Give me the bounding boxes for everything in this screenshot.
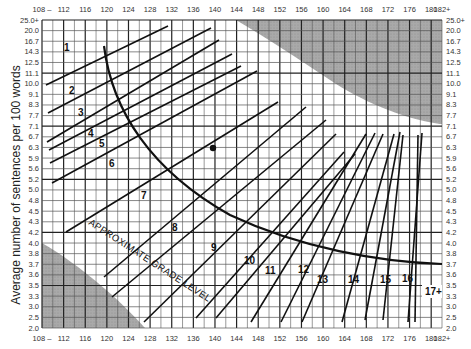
svg-text:12.5: 12.5 [446, 58, 461, 67]
grade-label-7: 7 [141, 190, 147, 201]
svg-text:152: 152 [274, 5, 287, 14]
svg-text:4.2: 4.2 [29, 228, 39, 237]
svg-text:2.5: 2.5 [29, 313, 39, 322]
grade-label-5: 5 [99, 138, 105, 149]
svg-text:148: 148 [252, 5, 265, 14]
svg-text:11.1: 11.1 [446, 69, 460, 78]
svg-text:182+: 182+ [434, 5, 452, 14]
svg-text:3.0: 3.0 [446, 302, 456, 311]
svg-text:124: 124 [122, 334, 135, 343]
grade-label-10: 10 [244, 255, 256, 266]
svg-text:144: 144 [230, 5, 243, 14]
grade-label-3: 3 [78, 107, 84, 118]
svg-text:108 –: 108 – [33, 5, 53, 14]
grade-label-9: 9 [211, 242, 217, 253]
svg-text:132: 132 [165, 334, 178, 343]
grade-label-15: 15 [380, 274, 392, 285]
svg-text:3.6: 3.6 [29, 270, 39, 279]
svg-text:164: 164 [338, 5, 351, 14]
svg-text:108 –: 108 – [33, 334, 53, 343]
svg-text:5.0: 5.0 [29, 185, 39, 194]
svg-text:2.5: 2.5 [446, 313, 456, 322]
svg-text:9.1: 9.1 [29, 90, 39, 99]
svg-text:6.3: 6.3 [29, 143, 39, 152]
svg-text:2.0: 2.0 [446, 324, 456, 333]
svg-text:3.3: 3.3 [446, 292, 456, 301]
svg-text:176: 176 [403, 5, 416, 14]
svg-text:4.0: 4.0 [29, 239, 39, 248]
svg-text:20.0: 20.0 [446, 26, 461, 35]
svg-text:160: 160 [317, 334, 330, 343]
svg-text:5.2: 5.2 [446, 175, 456, 184]
svg-text:4.3: 4.3 [29, 217, 39, 226]
svg-text:16.7: 16.7 [24, 37, 39, 46]
svg-text:5.2: 5.2 [29, 175, 39, 184]
svg-text:6.7: 6.7 [446, 132, 456, 141]
svg-text:14.3: 14.3 [446, 47, 461, 56]
svg-text:7.7: 7.7 [446, 111, 456, 120]
svg-text:3.5: 3.5 [29, 281, 39, 290]
svg-text:112: 112 [58, 5, 70, 14]
svg-text:168: 168 [360, 334, 373, 343]
svg-text:140: 140 [209, 5, 222, 14]
y-axis-right-ticks: 25.0+20.016.714.312.511.110.09.18.37.77.… [446, 16, 466, 333]
sample-point [210, 145, 216, 151]
svg-text:4.5: 4.5 [29, 207, 39, 216]
svg-text:9.1: 9.1 [446, 90, 456, 99]
svg-text:120: 120 [101, 334, 114, 343]
svg-text:172: 172 [382, 5, 395, 14]
x-axis-bottom-ticks: 108 –11211612012412813213614014414815215… [33, 334, 451, 343]
grade-label-2: 2 [69, 85, 75, 96]
svg-text:4.8: 4.8 [446, 196, 456, 205]
svg-text:172: 172 [382, 334, 395, 343]
svg-text:6.7: 6.7 [29, 132, 39, 141]
grade-label-14: 14 [348, 274, 360, 285]
grade-label-17plus: 17+ [425, 286, 442, 297]
svg-text:124: 124 [122, 5, 135, 14]
svg-text:116: 116 [79, 334, 91, 343]
svg-text:182+: 182+ [434, 334, 452, 343]
svg-text:4.2: 4.2 [446, 228, 456, 237]
grade-label-11: 11 [265, 265, 276, 276]
x-axis-top-ticks: 108 –11211612012412813213614014414815215… [33, 5, 451, 14]
svg-text:6.3: 6.3 [446, 143, 456, 152]
svg-text:128: 128 [144, 334, 157, 343]
svg-text:3.6: 3.6 [446, 270, 456, 279]
svg-text:14.3: 14.3 [24, 47, 39, 56]
svg-text:5.9: 5.9 [446, 154, 456, 163]
svg-text:3.3: 3.3 [29, 292, 39, 301]
svg-text:25.0+: 25.0+ [446, 16, 466, 25]
svg-text:156: 156 [295, 5, 308, 14]
svg-text:4.8: 4.8 [29, 196, 39, 205]
svg-text:25.0+: 25.0+ [20, 16, 40, 25]
svg-text:160: 160 [317, 5, 330, 14]
svg-text:164: 164 [338, 334, 351, 343]
svg-text:8.3: 8.3 [29, 100, 39, 109]
svg-text:4.5: 4.5 [446, 207, 456, 216]
svg-text:7.1: 7.1 [29, 122, 39, 131]
svg-text:168: 168 [360, 5, 373, 14]
svg-text:136: 136 [187, 334, 200, 343]
svg-text:7.7: 7.7 [29, 111, 39, 120]
svg-text:152: 152 [274, 334, 287, 343]
svg-text:7.1: 7.1 [446, 122, 456, 131]
svg-text:148: 148 [252, 334, 265, 343]
svg-text:3.0: 3.0 [29, 302, 39, 311]
svg-text:2.0: 2.0 [29, 324, 39, 333]
svg-text:5.0: 5.0 [446, 185, 456, 194]
svg-text:132: 132 [165, 5, 178, 14]
svg-text:3.8: 3.8 [446, 249, 456, 258]
grade-label-1: 1 [64, 42, 70, 53]
svg-text:3.7: 3.7 [29, 260, 39, 269]
svg-text:112: 112 [58, 334, 70, 343]
svg-text:136: 136 [187, 5, 200, 14]
svg-text:5.9: 5.9 [29, 154, 39, 163]
grade-label-16: 16 [402, 273, 414, 284]
svg-text:11.1: 11.1 [25, 69, 39, 78]
svg-text:120: 120 [101, 5, 114, 14]
svg-text:5.6: 5.6 [29, 164, 39, 173]
grade-label-4: 4 [88, 128, 94, 139]
svg-text:5.6: 5.6 [446, 164, 456, 173]
svg-text:10.0: 10.0 [446, 79, 461, 88]
svg-text:3.5: 3.5 [446, 281, 456, 290]
